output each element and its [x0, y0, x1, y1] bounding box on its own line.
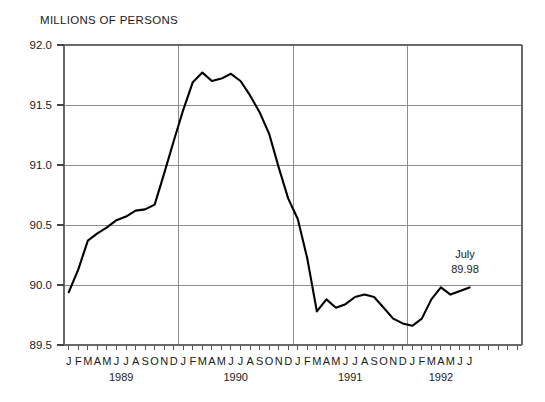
x-axis-year-label: 1990: [224, 371, 248, 383]
x-axis-month-label: D: [284, 355, 292, 367]
data-line-series: [69, 73, 470, 326]
x-axis-month-label: O: [379, 355, 388, 367]
annotation-group: July89.98: [451, 248, 479, 275]
x-axis-labels-group: JFMAMJJASONDJFMAMJJASONDJFMAMJJASONDJFMA…: [66, 355, 472, 367]
x-axis-month-label: J: [66, 355, 72, 367]
x-axis-month-label: J: [352, 355, 358, 367]
x-axis-month-label: M: [102, 355, 111, 367]
x-axis-month-label: O: [150, 355, 159, 367]
annotation-label: July: [455, 248, 475, 260]
x-axis-month-label: N: [275, 355, 283, 367]
x-axis-month-label: J: [238, 355, 244, 367]
data-series-group: [69, 73, 470, 326]
x-axis-month-label: F: [75, 355, 82, 367]
x-axis-month-label: N: [389, 355, 397, 367]
x-axis-month-label: J: [295, 355, 301, 367]
x-axis-month-label: J: [467, 355, 473, 367]
x-axis-month-label: M: [217, 355, 226, 367]
x-axis-month-label: A: [437, 355, 445, 367]
x-axis-month-label: S: [256, 355, 263, 367]
y-axis-tick-label: 91.0: [30, 159, 52, 171]
x-axis-year-label: 1989: [109, 371, 133, 383]
line-chart: 92.091.591.090.590.089.5 JFMAMJJASONDJFM…: [0, 0, 545, 402]
x-axis-year-label: 1991: [338, 371, 362, 383]
x-axis-month-label: F: [304, 355, 311, 367]
x-axis-month-label: J: [410, 355, 416, 367]
x-axis-month-label: N: [160, 355, 168, 367]
x-axis-month-label: J: [457, 355, 463, 367]
x-axis-month-label: F: [189, 355, 196, 367]
y-axis-labels-group: 92.091.591.090.590.089.5: [30, 39, 52, 351]
x-axis-month-label: S: [141, 355, 148, 367]
x-axis-month-label: A: [361, 355, 369, 367]
x-axis-month-label: A: [323, 355, 331, 367]
x-axis-month-label: A: [94, 355, 102, 367]
gridlines-group: [64, 45, 522, 345]
x-axis-month-label: M: [312, 355, 321, 367]
x-axis-month-label: A: [132, 355, 140, 367]
chart-container: MILLIONS OF PERSONS 92.091.591.090.590.0…: [0, 0, 545, 402]
x-axis-year-label: 1992: [429, 371, 453, 383]
year-labels-group: 1989199019911992: [109, 371, 453, 383]
x-axis-month-label: J: [123, 355, 129, 367]
y-tickmarks-group: [57, 45, 64, 345]
y-axis-tick-label: 90.0: [30, 279, 52, 291]
x-axis-month-label: D: [170, 355, 178, 367]
x-axis-month-label: A: [246, 355, 254, 367]
x-axis-month-label: D: [399, 355, 407, 367]
y-axis-tick-label: 89.5: [30, 339, 52, 351]
x-axis-month-label: J: [343, 355, 349, 367]
x-axis-month-label: M: [427, 355, 436, 367]
y-axis-tick-label: 92.0: [30, 39, 52, 51]
x-axis-month-label: J: [114, 355, 120, 367]
y-axis-tick-label: 91.5: [30, 99, 52, 111]
x-axis-month-label: S: [370, 355, 377, 367]
x-axis-month-label: A: [208, 355, 216, 367]
annotation-value: 89.98: [451, 263, 479, 275]
x-axis-month-label: J: [228, 355, 234, 367]
x-axis-month-label: M: [331, 355, 340, 367]
x-tickmarks-group: [69, 345, 517, 350]
x-axis-month-label: J: [181, 355, 187, 367]
y-axis-tick-label: 90.5: [30, 219, 52, 231]
x-axis-month-label: M: [83, 355, 92, 367]
x-axis-month-label: M: [198, 355, 207, 367]
x-axis-month-label: M: [446, 355, 455, 367]
x-axis-month-label: F: [418, 355, 425, 367]
x-axis-month-label: O: [265, 355, 274, 367]
